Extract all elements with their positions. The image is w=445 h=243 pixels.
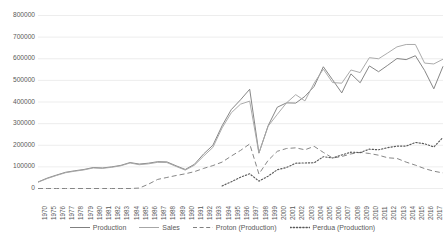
legend-item-sales[interactable]: Sales xyxy=(139,224,180,231)
x-axis-tick-label: 2008 xyxy=(354,205,361,219)
x-axis-tick-label: 1983 xyxy=(123,205,130,219)
y-axis-tick-label: 700000 xyxy=(13,33,35,40)
solid-line-swatch xyxy=(139,224,159,231)
legend-label: Proton (Production) xyxy=(216,224,277,231)
gridlines xyxy=(38,16,443,189)
x-axis-tick-label: 1977 xyxy=(68,205,75,219)
x-axis-tick-label: 1996 xyxy=(243,205,250,219)
x-axis-tick-label: 1998 xyxy=(262,205,269,219)
x-axis-tick-label: 1994 xyxy=(225,205,232,219)
series-line-proton-production xyxy=(38,144,443,189)
x-axis-tick-label: 1975 xyxy=(50,205,57,219)
x-axis-tick-label: 1978 xyxy=(77,205,84,219)
y-axis-tick-label: 600000 xyxy=(13,54,35,61)
x-axis-tick-label: 2006 xyxy=(335,205,342,219)
x-axis-tick-label: 1989 xyxy=(179,205,186,219)
y-axis-tick-label: 800000 xyxy=(13,11,35,18)
x-axis-tick-label: 2004 xyxy=(317,205,324,219)
x-axis-tick-label: 1997 xyxy=(252,205,259,219)
x-axis-tick-label: 2014 xyxy=(409,205,416,219)
dashed-line-swatch xyxy=(193,224,213,231)
solid-line-swatch xyxy=(70,224,90,231)
legend-label: Perdua (Production) xyxy=(313,224,376,231)
x-axis-tick-label: 2017 xyxy=(436,205,443,219)
y-axis-tick-label: 300000 xyxy=(13,119,35,126)
line-chart: 0100000200000300000400000500000600000700… xyxy=(0,0,445,243)
legend-item-proton-production[interactable]: Proton (Production) xyxy=(193,224,277,231)
legend-item-perdua-production[interactable]: Perdua (Production) xyxy=(290,224,376,231)
x-axis-tick-label: 2013 xyxy=(400,205,407,219)
x-axis-tick-label: 1987 xyxy=(160,205,167,219)
x-axis-tick-label: 2000 xyxy=(280,205,287,219)
legend-label: Production xyxy=(93,224,126,231)
x-axis-tick-label: 2012 xyxy=(390,205,397,219)
x-axis-tick-label: 1980 xyxy=(96,205,103,219)
series-line-sales xyxy=(38,44,443,182)
x-axis-tick-label: 2010 xyxy=(372,205,379,219)
dotted-line-swatch xyxy=(290,224,310,231)
x-axis-tick-label: 1982 xyxy=(114,205,121,219)
x-axis-tick-label: 1990 xyxy=(188,205,195,219)
y-axis-tick-label: 100000 xyxy=(13,162,35,169)
x-axis-tick-label: 1970 xyxy=(41,205,48,219)
x-axis-tick-label: 1979 xyxy=(87,205,94,219)
chart-legend: ProductionSalesProton (Production)Perdua… xyxy=(0,224,445,231)
x-axis-tick-label: 2001 xyxy=(289,205,296,219)
x-axis-tick-label: 1981 xyxy=(105,205,112,219)
legend-item-production[interactable]: Production xyxy=(70,224,126,231)
x-axis-tick-label: 1986 xyxy=(151,205,158,219)
x-axis-tick-label: 1988 xyxy=(169,205,176,219)
x-axis-tick-label: 1984 xyxy=(133,205,140,219)
series-line-production xyxy=(38,56,443,182)
y-axis-tick-label: 400000 xyxy=(13,98,35,105)
x-axis-tick-label: 1999 xyxy=(271,205,278,219)
legend-label: Sales xyxy=(162,224,180,231)
x-axis-tick-label: 1991 xyxy=(197,205,204,219)
x-axis-tick-label: 2011 xyxy=(381,206,388,220)
x-axis-tick-label: 2002 xyxy=(298,205,305,219)
y-axis-tick-label: 500000 xyxy=(13,76,35,83)
x-axis-tick-label: 1995 xyxy=(234,205,241,219)
y-axis-tick-label: 200000 xyxy=(13,141,35,148)
x-axis-tick-label: 1976 xyxy=(59,205,66,219)
x-axis-tick-label: 2007 xyxy=(344,205,351,219)
x-axis-tick-label: 1993 xyxy=(215,205,222,219)
x-axis-tick-label: 2005 xyxy=(326,205,333,219)
x-axis-tick-label: 2016 xyxy=(427,205,434,219)
x-axis-tick-label: 2015 xyxy=(418,205,425,219)
x-axis-tick-label: 2003 xyxy=(308,205,315,219)
x-axis-tick-label: 1985 xyxy=(142,205,149,219)
x-axis-tick-label: 2009 xyxy=(363,205,370,219)
y-axis-tick-label: 0 xyxy=(31,184,35,191)
x-axis-tick-label: 1992 xyxy=(206,205,213,219)
